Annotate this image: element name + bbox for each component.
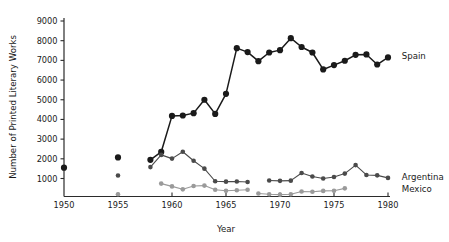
series-layer [61,35,391,197]
x-tick-label-1950: 1950 [54,200,75,210]
datapoint-argentina-1971 [289,178,294,183]
datapoint-argentina-1961 [181,149,186,154]
datapoint-spain-1962 [191,110,197,116]
datapoint-mexico-1966 [235,188,240,193]
datapoint-spain-1976 [342,58,348,64]
y-axis-title: Number of Printed Literary Works [8,35,18,179]
datapoint-spain-1971 [288,35,294,41]
series-spain [61,35,391,171]
datapoint-spain-1977 [353,52,359,58]
datapoint-spain-1974 [320,66,326,72]
series-line-argentina-2 [269,165,388,181]
datapoint-argentina-1976 [343,171,348,176]
datapoint-argentina-1973 [310,174,315,179]
datapoint-mexico-1969 [267,192,272,197]
datapoint-spain-1979 [374,61,380,67]
datapoint-mexico-1971 [289,192,294,197]
datapoint-argentina-1980 [386,176,391,181]
series-label-spain: Spain [402,51,426,61]
datapoint-spain-1968 [255,58,261,64]
datapoint-spain-1969 [266,49,272,55]
datapoint-mexico-1975 [332,188,337,193]
chart-figure: 100020003000400050006000700080009000 195… [0,0,449,242]
datapoint-spain-1964 [212,111,218,117]
datapoint-spain-1973 [309,49,315,55]
y-tick-label-4000: 4000 [37,114,58,124]
datapoint-argentina-1974 [321,176,326,181]
y-tick-label-6000: 6000 [37,75,58,85]
x-axis-title: Year [216,224,236,234]
y-tick-label-8000: 8000 [37,36,58,46]
datapoint-mexico-1961 [181,187,186,192]
datapoint-argentina-1975 [332,175,337,180]
datapoint-mexico-1960 [170,184,175,189]
datapoint-spain-1978 [363,51,369,57]
datapoint-argentina-1967 [245,180,250,185]
datapoint-argentina-1958 [148,165,153,170]
x-tick-label-1980: 1980 [378,200,399,210]
datapoint-mexico-1955 [116,192,121,197]
series-mexico [116,181,347,197]
x-tick-label-1960: 1960 [162,200,183,210]
x-axis: 1950195519601965197019751980 [54,193,399,211]
datapoint-argentina-1969 [267,178,272,183]
datapoint-argentina-1977 [353,163,358,168]
x-tick-label-1965: 1965 [216,200,237,210]
y-tick-label-7000: 7000 [37,55,58,65]
x-tick-label-1970: 1970 [270,200,291,210]
y-tick-label-2000: 2000 [37,154,58,164]
datapoint-spain-1970 [277,47,283,53]
datapoint-spain-1966 [234,45,240,51]
y-tick-label-1000: 1000 [37,174,58,184]
datapoint-mexico-1967 [245,187,250,192]
datapoint-argentina-1965 [224,179,229,184]
chart-canvas: 100020003000400050006000700080009000 195… [0,0,449,242]
series-line-argentina-1 [150,152,247,182]
datapoint-argentina-1963 [202,166,207,171]
datapoint-argentina-1966 [235,179,240,184]
series-labels: SpainArgentinaMexico [402,51,444,194]
datapoint-mexico-1974 [321,189,326,194]
datapoint-spain-1967 [245,49,251,55]
datapoint-argentina-1970 [278,179,283,184]
datapoint-argentina-1955 [116,173,121,178]
datapoint-mexico-1976 [343,186,348,191]
datapoint-argentina-1964 [213,179,218,184]
series-label-mexico: Mexico [402,184,432,194]
datapoint-mexico-1973 [310,189,315,194]
datapoint-spain-1963 [201,97,207,103]
y-tick-label-5000: 5000 [37,95,58,105]
datapoint-mexico-1972 [299,189,304,194]
datapoint-spain-1958 [147,157,153,163]
datapoint-argentina-1979 [375,173,380,178]
datapoint-spain-1980 [385,54,391,60]
datapoint-spain-1975 [331,62,337,68]
datapoint-mexico-1962 [191,184,196,189]
y-tick-label-3000: 3000 [37,134,58,144]
datapoint-spain-1950 [61,165,67,171]
datapoint-spain-1972 [299,44,305,50]
series-label-argentina: Argentina [402,172,444,182]
datapoint-mexico-1968 [256,191,261,196]
datapoint-argentina-1960 [170,156,175,161]
datapoint-mexico-1970 [278,192,283,197]
datapoint-argentina-1978 [364,173,369,178]
datapoint-mexico-1965 [224,188,229,193]
datapoint-argentina-1972 [299,171,304,176]
datapoint-mexico-1964 [213,187,218,192]
datapoint-spain-1955 [115,154,121,160]
y-tick-label-9000: 9000 [37,16,58,26]
datapoint-spain-1960 [169,113,175,119]
datapoint-mexico-1959 [159,181,164,186]
datapoint-argentina-1959 [159,153,164,158]
datapoint-spain-1961 [180,112,186,118]
x-tick-label-1975: 1975 [324,200,345,210]
series-line-spain-2 [150,38,388,160]
y-axis: 100020003000400050006000700080009000 [37,16,64,197]
x-tick-label-1955: 1955 [108,200,129,210]
datapoint-spain-1965 [223,91,229,97]
datapoint-argentina-1962 [191,158,196,163]
datapoint-mexico-1963 [202,183,207,188]
